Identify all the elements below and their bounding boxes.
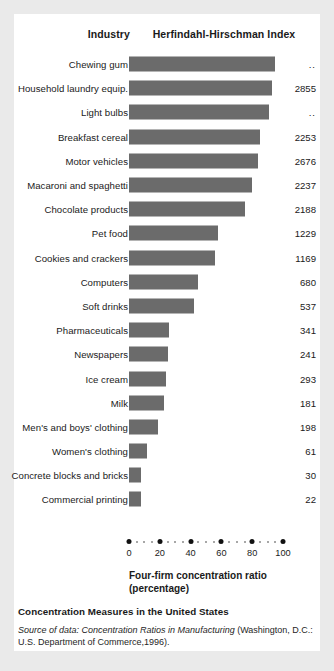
column-header-hhi: Herfindahl-Hirschman Index [132,28,316,40]
axis-tick-major [281,539,286,544]
table-row: Pharmaceuticals341 [14,318,320,342]
axis-tick-minor [136,541,138,543]
row-label-industry: Milk [111,397,128,408]
axis-tick-minor [197,541,199,543]
row-label-industry: Commercial printing [42,494,128,505]
bar-track [129,178,283,193]
bar [129,105,269,120]
row-label-industry: Motor vehicles [65,155,128,166]
bar-track [129,419,283,434]
row-value-hhi: 22 [286,494,316,505]
bar [129,468,141,483]
table-row: Macaroni and spaghetti2237 [14,173,320,197]
row-value-hhi: 1229 [286,228,316,239]
figure-card: Industry Herfindahl-Hirschman Index Chew… [14,14,320,651]
table-row: Soft drinks537 [14,294,320,318]
row-value-hhi: 241 [286,349,316,360]
row-label-industry: Pharmaceuticals [56,325,128,336]
table-row: Men's and boys' clothing198 [14,415,320,439]
row-label-industry: Computers [81,276,128,287]
row-label-industry: Chocolate products [44,204,128,215]
caption-title: Concentration Measures in the United Sta… [18,606,314,617]
table-row: Ice cream293 [14,366,320,390]
axis-tick-major [188,539,193,544]
row-label-industry: Breakfast cereal [58,131,128,142]
row-value-hhi: 181 [286,397,316,408]
axis-tick-minor [244,541,246,543]
axis-tick-minor [151,541,153,543]
bar-track [129,153,283,168]
row-label-industry: Cookies and crackers [35,252,128,263]
axis-tick-major [250,539,255,544]
x-axis-title-line1: Four-firm concentration ratio [129,570,309,583]
bar [129,444,147,459]
row-label-industry: Household laundry equip. [18,83,128,94]
bar-track [129,105,283,120]
row-label-industry: Newspapers [74,349,128,360]
source-work-title: Concentration Ratios in Manufacturing [82,625,235,635]
table-row: Cookies and crackers1169 [14,246,320,270]
bar-track [129,202,283,217]
row-label-industry: Chewing gum [69,59,128,70]
bar [129,178,252,193]
row-value-hhi: 2237 [286,180,316,191]
row-label-industry: Concrete blocks and bricks [12,470,128,481]
bar [129,492,141,507]
x-axis-ticks: 020406080100 [129,538,283,547]
bar [129,298,194,313]
bar [129,274,198,289]
axis-tick-major [127,539,132,544]
bar-track [129,347,283,362]
axis-tick-label: 40 [185,548,195,558]
bar-chart-plot: Chewing gum..Household laundry equip.285… [14,52,320,536]
row-value-hhi: 537 [286,300,316,311]
bar-track [129,250,283,265]
bar-track [129,129,283,144]
bar [129,129,260,144]
axis-tick-minor [267,541,269,543]
axis-tick-label: 0 [126,548,131,558]
table-row: Women's clothing61 [14,439,320,463]
bar-track [129,81,283,96]
row-value-hhi: 30 [286,470,316,481]
axis-tick-minor [236,541,238,543]
row-value-hhi: 2855 [286,83,316,94]
bar-track [129,323,283,338]
bar-track [129,371,283,386]
axis-tick-minor [228,541,230,543]
row-label-industry: Macaroni and spaghetti [27,180,128,191]
axis-tick-minor [213,541,215,543]
row-label-industry: Soft drinks [82,300,128,311]
table-row: Pet food1229 [14,221,320,245]
axis-tick-minor [205,541,207,543]
axis-tick-major [157,539,162,544]
bar [129,202,245,217]
axis-tick-minor [167,541,169,543]
table-row: Chocolate products2188 [14,197,320,221]
table-row: Motor vehicles2676 [14,149,320,173]
row-value-hhi: 1169 [286,252,316,263]
x-axis-title: Four-firm concentration ratio (percentag… [129,570,309,595]
axis-tick-minor [143,541,145,543]
row-value-hhi: 293 [286,373,316,384]
bar [129,153,258,168]
row-value-hhi: .. [286,59,316,70]
axis-tick-minor [259,541,261,543]
row-value-hhi: 2676 [286,155,316,166]
table-row: Computers680 [14,270,320,294]
column-header-industry: Industry [14,28,130,40]
bar-track [129,57,283,72]
row-value-hhi: 198 [286,421,316,432]
bar [129,81,272,96]
row-value-hhi: 680 [286,276,316,287]
row-label-industry: Light bulbs [81,107,128,118]
axis-tick-label: 20 [155,548,165,558]
row-value-hhi: 61 [286,446,316,457]
figure-caption: Concentration Measures in the United Sta… [18,606,314,649]
x-axis: 020406080100 [129,538,283,566]
axis-tick-minor [274,541,276,543]
row-label-industry: Women's clothing [52,446,128,457]
bar-track [129,444,283,459]
row-value-hhi: 341 [286,325,316,336]
chart-column-headers: Industry Herfindahl-Hirschman Index [14,28,320,46]
